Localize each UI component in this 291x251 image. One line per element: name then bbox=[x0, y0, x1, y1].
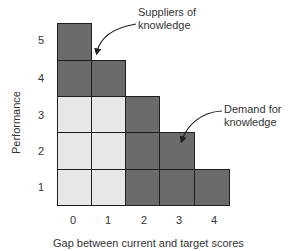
arrow-demand-icon bbox=[182, 111, 222, 140]
arrows bbox=[0, 0, 291, 251]
arrow-suppliers-icon bbox=[97, 24, 136, 52]
